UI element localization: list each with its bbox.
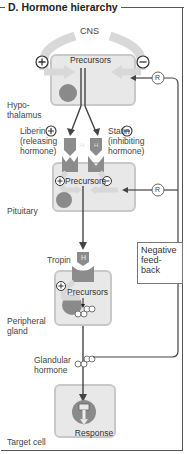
cns-inhibit-arrow-icon (110, 36, 141, 70)
receptor-r-label-top: R (155, 73, 160, 83)
cns-label: CNS (80, 26, 99, 36)
statin-label: Statin (inhibiting hormone) (108, 126, 144, 156)
pituitary-precursors-label: Precursors (65, 176, 106, 186)
tropin-receptor-icon (72, 266, 94, 282)
peripheral-gland-label: Peripheral gland (7, 316, 46, 336)
hypothalamus-precursors-label: Precursors (70, 55, 111, 65)
liberin-receptor-icon (62, 156, 78, 172)
liberin-h-glyph: H (80, 140, 84, 150)
negative-feedback-label: Negative feed- back (137, 242, 183, 284)
liberin-label: Liberin (releasing hormone) (20, 126, 57, 156)
statin-receptor-icon (88, 156, 104, 172)
target-cell-label: Target cell (7, 437, 46, 447)
pituitary-label: Pituitary (7, 206, 38, 216)
tropin-label: Tropin (47, 255, 71, 265)
diagram-graphics (0, 0, 187, 454)
hypothalamus-label: Hypo- thalamus (7, 100, 42, 120)
pituitary-nucleus (56, 192, 72, 208)
feedback-line (93, 78, 178, 357)
glandular-hormone-molecule-icon (75, 356, 95, 367)
statin-h-glyph: H (94, 140, 98, 150)
liberin-hormone-icon (64, 138, 76, 156)
hypothalamus-nucleus (59, 84, 77, 102)
peripheral-precursors-label: Precursors (67, 287, 108, 297)
receptor-r-label-bottom: R (155, 185, 160, 195)
tropin-h-glyph: H (81, 253, 86, 263)
response-label: Response (64, 428, 124, 438)
glandular-hormone-label: Glandular hormone (34, 355, 71, 375)
